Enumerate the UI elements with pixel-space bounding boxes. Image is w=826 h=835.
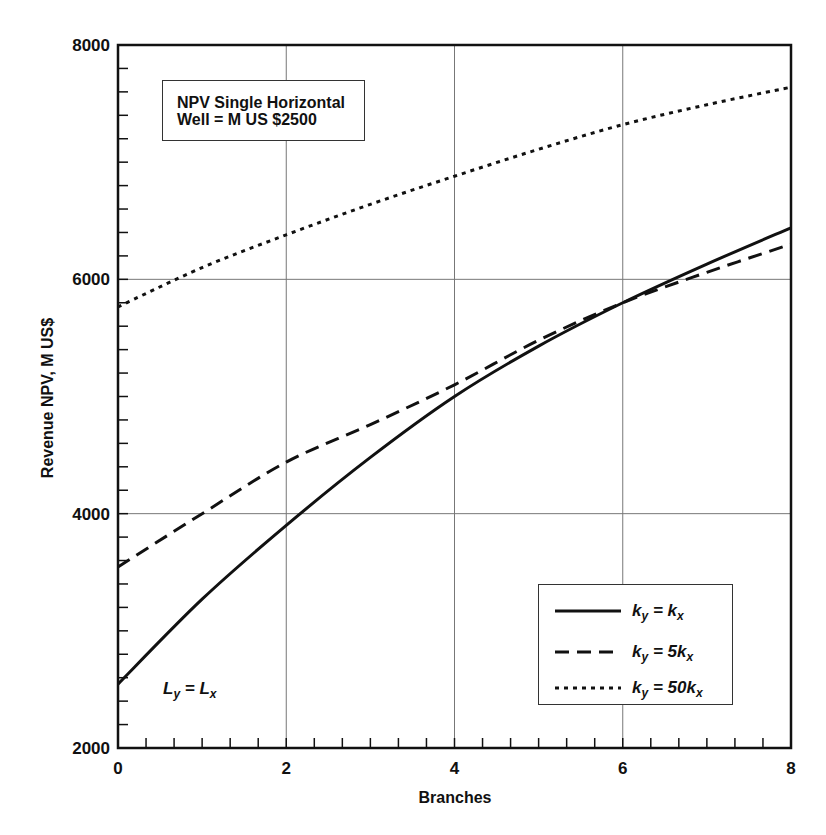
dotted-line-swatch-icon [553,675,633,705]
legend: ky = kx ky = 5kx ky = 50kx [538,584,733,705]
svg-text:2000: 2000 [72,739,110,758]
svg-text:4: 4 [450,759,460,778]
legend-item-ky-eq-50kx: ky = 50kx [539,675,732,705]
svg-text:6: 6 [618,759,627,778]
annotation-ly-eq-lx: Ly = Lx [163,679,217,701]
y-tick-labels: 2000400060008000 [72,36,110,758]
svg-text:8: 8 [786,759,795,778]
x-tick-labels: 02468 [113,759,795,778]
y-axis-title: Revenue NPV, M US$ [39,318,56,478]
chart-title-line-2: Well = M US $2500 [177,111,317,128]
chart-title-line-1: NPV Single Horizontal [177,94,345,111]
legend-label: ky = kx [632,601,684,623]
chart-title-box: NPV Single Horizontal Well = M US $2500 [162,80,365,141]
x-axis-title: Branches [419,789,492,806]
svg-text:4000: 4000 [72,505,110,524]
legend-item-ky-eq-kx: ky = kx [539,598,732,628]
svg-text:8000: 8000 [72,36,110,55]
solid-line-swatch-icon [553,598,633,628]
svg-text:2: 2 [282,759,291,778]
line-chart: 02468 2000400060008000 Branches Revenue … [0,0,826,835]
legend-label: ky = 5kx [632,642,693,664]
svg-text:6000: 6000 [72,270,110,289]
legend-item-ky-eq-5kx: ky = 5kx [539,639,732,669]
legend-label: ky = 50kx [632,678,703,700]
svg-text:0: 0 [113,759,122,778]
dashed-line-swatch-icon [553,639,633,669]
